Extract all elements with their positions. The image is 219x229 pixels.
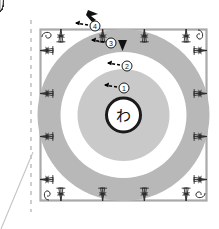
center-loop-kana: わ [116,107,131,125]
round-marker-label: 4 [93,23,97,30]
crochet-chart-figure: わ 1234 [0,0,219,229]
round-marker-label: 2 [125,63,129,70]
round-marker-label: 1 [122,85,126,92]
round-marker-label: 3 [109,40,113,47]
chart-canvas: わ 1234 [0,0,219,229]
